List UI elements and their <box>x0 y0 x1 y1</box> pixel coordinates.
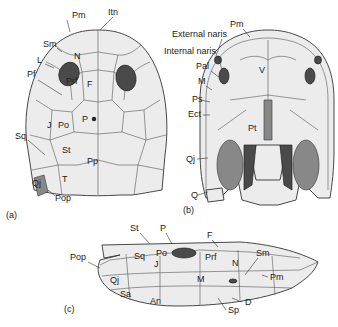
label-c-sp: Sp <box>228 305 239 315</box>
label-external-naris: External naris <box>172 29 228 39</box>
label-l: L <box>37 55 42 65</box>
label-qj: Qj <box>32 178 41 188</box>
label-c-po: Po <box>156 248 167 258</box>
label-b-pm: Pm <box>230 19 244 29</box>
caption-b: (b) <box>183 205 194 215</box>
label-c-sa: Sa <box>120 289 131 299</box>
label-b-m: M <box>198 76 206 86</box>
label-ps: Ps <box>192 94 203 104</box>
label-po: Po <box>58 120 69 130</box>
label-c-n: N <box>232 258 239 268</box>
label-ect: Ect <box>188 109 202 119</box>
label-t: T <box>62 174 68 184</box>
panel-b-palatal-skull: Pm External naris Internal naris Pal V M… <box>164 19 334 215</box>
skull-figure: Pm Itn Sm N L Pf Prf F J Po P Sq St Pp Q… <box>0 0 338 327</box>
label-c-pop: Pop <box>70 252 86 262</box>
label-c-pm: Pm <box>270 272 284 282</box>
label-internal-naris: Internal naris <box>164 46 217 56</box>
label-c-f: F <box>207 230 213 240</box>
panel-a-dorsal-skull: Pm Itn Sm N L Pf Prf F J Po P Sq St Pp Q… <box>6 7 167 220</box>
panel-c-lateral-skull: St P Po F Pop Sq J Prf N Sm Pm Qj M Sa A… <box>64 223 318 315</box>
label-itn: Itn <box>108 7 118 17</box>
label-pm: Pm <box>72 10 86 20</box>
label-pf: Pf <box>27 69 36 79</box>
label-pt: Pt <box>248 123 257 133</box>
label-c-p: P <box>160 223 166 233</box>
label-pop: Pop <box>55 193 71 203</box>
label-c-prf: Prf <box>205 252 217 262</box>
label-c-m: M <box>197 274 205 284</box>
caption-a: (a) <box>6 210 17 220</box>
label-c-an: An <box>150 296 161 306</box>
label-p: P <box>82 114 88 124</box>
label-c-st: St <box>130 223 139 233</box>
label-c-sm: Sm <box>256 248 270 258</box>
label-c-d: D <box>245 297 252 307</box>
label-f: F <box>87 79 93 89</box>
label-b-qj: Qj <box>186 154 195 164</box>
label-c-qj: Qj <box>110 275 119 285</box>
label-n: N <box>74 51 81 61</box>
label-pal: Pal <box>196 61 209 71</box>
label-j: J <box>47 120 52 130</box>
caption-c: (c) <box>64 304 75 314</box>
label-st: St <box>62 145 71 155</box>
label-c-sq: Sq <box>134 251 145 261</box>
label-prf: Prf <box>66 76 78 86</box>
label-sm: Sm <box>43 39 57 49</box>
label-v: V <box>259 65 265 75</box>
label-q: Q <box>191 190 198 200</box>
label-sq: Sq <box>15 131 26 141</box>
label-pp: Pp <box>87 156 98 166</box>
label-c-j: J <box>154 259 159 269</box>
